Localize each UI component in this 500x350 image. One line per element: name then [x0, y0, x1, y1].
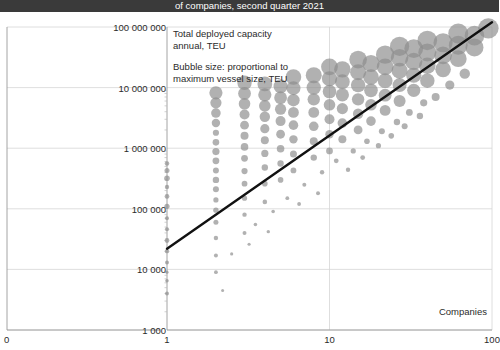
x-axis-tick-label: 1 — [164, 334, 169, 345]
y-axis-tick-label: 1 000 000 — [124, 143, 166, 154]
y-axis-tick-label: 10 000 000 — [118, 82, 166, 93]
plot-area: Total deployed capacity annual, TEU Bubb… — [0, 14, 499, 350]
x-axis-title: Companies — [439, 306, 487, 317]
chart-title-bar: of companies, second quarter 2021 — [0, 0, 499, 12]
y-axis-tick-label: 1 000 — [142, 325, 166, 336]
y-axis-tick-label: 10 000 — [137, 264, 166, 275]
tick-label-layer: 1 00010 000100 0001 000 00010 000 000100… — [0, 14, 499, 350]
y-axis-tick-label: 100 000 — [132, 203, 166, 214]
x-axis-tick-label: 100 — [484, 334, 500, 345]
x-axis-tick-label: 0 — [4, 334, 9, 345]
x-axis-tick-label: 10 — [324, 334, 335, 345]
y-axis-tick-label: 100 000 000 — [113, 22, 166, 33]
